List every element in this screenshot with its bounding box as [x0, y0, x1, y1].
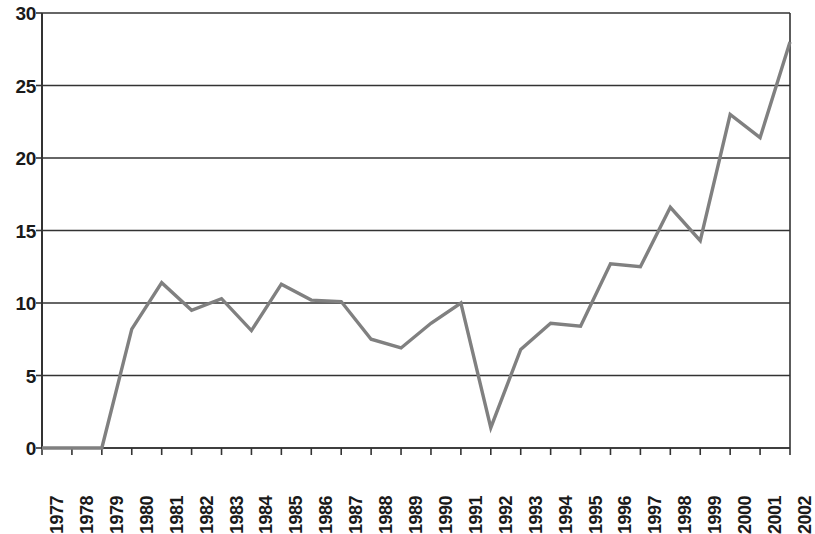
x-axis-tick-label: 1985	[287, 496, 305, 534]
x-axis-tick-label: 1982	[198, 496, 216, 534]
plot-svg	[42, 13, 790, 448]
x-axis-tick-label: 1993	[527, 496, 545, 534]
x-axis-tick-label: 1989	[407, 496, 425, 534]
x-axis-tick-label: 1978	[78, 496, 96, 534]
y-axis-tick-label: 30	[2, 4, 36, 23]
x-axis-tick-label: 1999	[706, 496, 724, 534]
x-axis-tick-label: 1995	[587, 496, 605, 534]
x-axis-tick-label: 1979	[108, 496, 126, 534]
data-series-line	[42, 42, 790, 448]
y-axis-tick-label: 0	[2, 439, 36, 458]
y-axis-tick-label: 15	[2, 222, 36, 241]
x-axis-tick-label: 1994	[557, 496, 575, 534]
x-axis-tick-label: 1996	[616, 496, 634, 534]
y-axis-tick-label: 5	[2, 367, 36, 386]
x-axis-tick-label: 2001	[766, 496, 784, 534]
x-axis-tick-label: 1998	[676, 496, 694, 534]
y-axis-tick-label: 10	[2, 294, 36, 313]
x-axis-tick-label: 1980	[138, 496, 156, 534]
y-axis-tick-label: 20	[2, 149, 36, 168]
x-axis-tick-label: 2000	[736, 496, 754, 534]
x-axis-tick-labels: 1977197819791980198119821983198419851986…	[42, 452, 802, 498]
x-axis-tick-label: 1977	[48, 496, 66, 534]
x-axis-tick-label: 1983	[228, 496, 246, 534]
y-axis-tick-labels: 051015202530	[0, 0, 36, 498]
x-axis-tick-label: 1984	[257, 496, 275, 534]
x-axis-tick-label: 1981	[168, 496, 186, 534]
x-axis-tick-label: 1987	[347, 496, 365, 534]
x-axis-tick-label: 1997	[646, 496, 664, 534]
y-axis-tick-label: 25	[2, 77, 36, 96]
x-axis-tick-label: 1992	[497, 496, 515, 534]
x-axis-tick-label: 1988	[377, 496, 395, 534]
x-axis-tick-label: 1986	[317, 496, 335, 534]
gridlines	[42, 13, 790, 448]
x-axis-tick-label: 1990	[437, 496, 455, 534]
plot-area	[42, 13, 790, 448]
x-axis-tick-label: 2002	[796, 496, 814, 534]
x-axis-tick-label: 1991	[467, 496, 485, 534]
